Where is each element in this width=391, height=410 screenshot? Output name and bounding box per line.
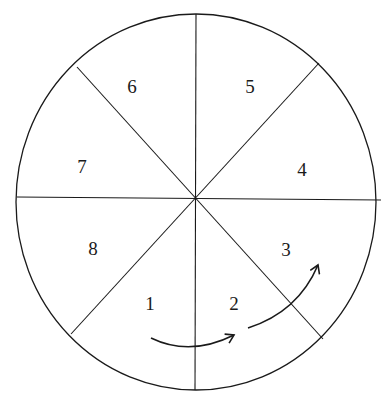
arrow-1-to-2-icon	[151, 335, 234, 347]
sector-diagram: 1 2 3 4 5 6 7 8	[0, 0, 391, 410]
divider-horizontal	[17, 197, 381, 200]
sector-label-5: 5	[245, 76, 255, 97]
sector-label-7: 7	[77, 156, 87, 177]
sector-label-2: 2	[229, 293, 239, 314]
arrow-2-to-3-icon	[248, 265, 318, 328]
sector-label-3: 3	[281, 239, 291, 260]
sector-label-4: 4	[297, 159, 307, 180]
sector-label-1: 1	[145, 293, 155, 314]
divider-diagonal-nw-se	[77, 67, 323, 339]
sector-label-8: 8	[88, 238, 98, 259]
sector-label-6: 6	[127, 76, 137, 97]
divider-vertical	[195, 14, 196, 390]
